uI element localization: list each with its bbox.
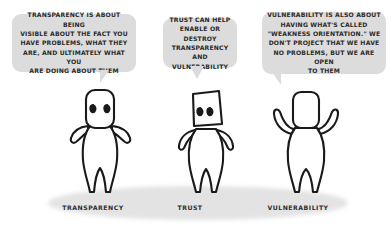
speech-bubble-transparency: TRANSPARENCY IS ABOUT BEING VISIBLE ABOU… [12, 14, 136, 72]
speech-bubble-trust: TRUST CAN HELP ENABLE OR DESTROY TRANSPA… [163, 18, 237, 68]
figure-transparency [62, 86, 138, 202]
figure-trust [168, 86, 244, 202]
caption-trust: TRUST [155, 204, 225, 211]
speech-bubble-tail-transparency [100, 70, 109, 83]
speech-bubble-tail-trust [190, 66, 204, 79]
figure-trust-drawing [168, 86, 244, 198]
figure-transparency-drawing [62, 86, 138, 198]
speech-bubble-vulnerability: VULNERABILITY IS ALSO ABOUT HAVING WHAT'… [262, 12, 386, 74]
speech-bubble-tail-vulnerability [272, 72, 281, 85]
illustration-canvas: TRANSPARENCY IS ABOUT BEING VISIBLE ABOU… [0, 0, 392, 230]
caption-vulnerability: VULNERABILITY [248, 204, 348, 211]
figure-vulnerability-drawing [268, 88, 344, 200]
figure-vulnerability [268, 88, 344, 204]
caption-transparency: TRANSPARENCY [48, 204, 138, 211]
